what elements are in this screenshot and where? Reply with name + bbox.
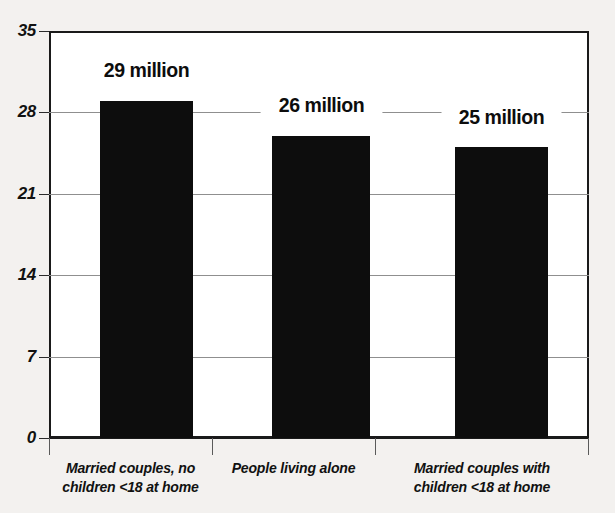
y-axis-label-28: 28: [0, 103, 36, 120]
y-axis-label-0: 0: [0, 429, 36, 446]
category-separator-right: [588, 438, 589, 455]
category-label-3: Married couples with children <18 at hom…: [378, 459, 586, 496]
bar-married-couples-no-children[interactable]: [100, 101, 193, 438]
category-label-1: Married couples, no children <18 at home: [51, 459, 209, 496]
chart-page: 35 28 21 14 7 0 29 million 26 million 25…: [0, 0, 615, 513]
y-tick-28: [39, 112, 49, 113]
category-separator-2: [375, 438, 376, 455]
y-tick-14: [39, 275, 49, 276]
value-label-bar-1: 29 million: [87, 58, 207, 82]
category-separator-left: [49, 438, 50, 455]
y-tick-7: [39, 357, 49, 358]
y-axis-label-14: 14: [0, 266, 36, 283]
category-label-3-line-2: children <18 at home: [378, 478, 586, 497]
category-label-3-line-1: Married couples with: [378, 459, 586, 478]
y-axis-label-7: 7: [0, 348, 36, 365]
category-label-2: People living alone: [214, 459, 372, 478]
category-label-2-line-1: People living alone: [214, 459, 372, 478]
y-tick-21: [39, 194, 49, 195]
category-label-1-line-2: children <18 at home: [51, 478, 209, 497]
y-axis-label-21: 21: [0, 185, 36, 202]
bar-people-living-alone[interactable]: [272, 136, 370, 438]
bar-married-couples-with-children[interactable]: [455, 147, 548, 438]
y-tick-35: [39, 31, 49, 32]
category-separator-1: [212, 438, 213, 455]
value-label-bar-3: 25 million: [442, 105, 562, 129]
y-tick-0: [39, 438, 49, 439]
value-label-bar-2: 26 million: [261, 93, 383, 117]
category-label-1-line-1: Married couples, no: [51, 459, 209, 478]
y-axis-label-35: 35: [0, 22, 36, 39]
